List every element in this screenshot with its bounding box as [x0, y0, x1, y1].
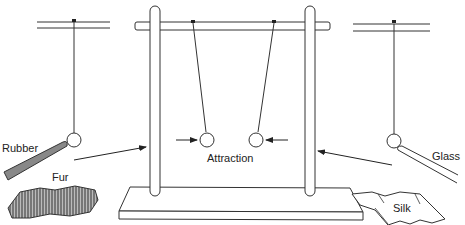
center-stand: [119, 6, 363, 220]
left-pith-ball: [67, 133, 81, 147]
center-right-pith-ball: [249, 133, 263, 147]
fur-swatch: [8, 186, 98, 218]
fur-label: Fur: [52, 171, 69, 183]
glass-label: Glass: [432, 150, 461, 162]
right-pith-ball: [387, 134, 401, 148]
rubber-label: Rubber: [2, 142, 38, 154]
center-left-pith-ball: [200, 133, 214, 147]
left-arrow: [74, 147, 146, 160]
diagram-canvas: Rubber Fur Attraction: [0, 0, 465, 225]
left-suspension: [37, 19, 110, 147]
attraction-label: Attraction: [207, 152, 253, 164]
right-arrow: [318, 151, 392, 165]
right-suspension: [353, 20, 430, 148]
silk-label: Silk: [393, 202, 411, 214]
